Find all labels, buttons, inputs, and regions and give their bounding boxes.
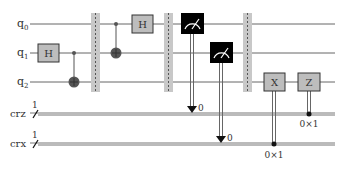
condition-x: 0×1 <box>265 150 284 160</box>
clbit-width-crz: 1 <box>32 100 38 110</box>
measure-result-crx: 0 <box>227 133 233 143</box>
barrier-3 <box>243 13 252 92</box>
condition-z: 0×1 <box>300 119 319 129</box>
barrier-2 <box>164 13 173 92</box>
measure-result-crz: 0 <box>198 103 204 113</box>
svg-text:H: H <box>138 19 147 30</box>
barrier-1 <box>91 13 100 92</box>
clbit-label-crz: crz <box>10 108 26 119</box>
bus-slash-icon <box>33 140 38 148</box>
circuit-diagram: q0 q1 q2 crz crx 1 1 H H 0 0 <box>0 0 348 169</box>
svg-text:X: X <box>271 77 279 88</box>
svg-text:Z: Z <box>306 77 313 88</box>
clbit-width-crx: 1 <box>32 130 38 140</box>
qubit-label-q0: q0 <box>17 17 29 32</box>
bus-slash-icon <box>33 110 38 118</box>
clbit-label-crx: crx <box>10 138 26 149</box>
qubit-label-q2: q2 <box>17 75 29 90</box>
qubit-label-q1: q1 <box>17 46 29 61</box>
svg-text:H: H <box>44 48 53 59</box>
